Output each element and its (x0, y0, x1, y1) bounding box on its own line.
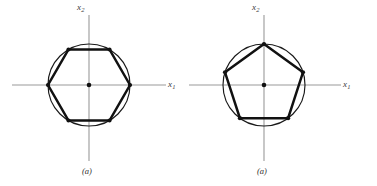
polygon-vertex-dot (262, 42, 266, 46)
polygon-vertex-dot (238, 116, 242, 120)
origin-dot (87, 83, 92, 88)
polygon-vertex-dot (223, 70, 227, 74)
polygon-vertex-dot (286, 116, 290, 120)
figure-panel-hexagon: x2 x1 (a) (0, 0, 188, 186)
figure-root: x2 x1 (a) x2 x1 (a) (0, 0, 377, 186)
polygon-vertex-dot (107, 47, 111, 51)
polygon-vertex-dot (46, 83, 50, 87)
polygon-vertex-dot (66, 47, 70, 51)
pentagon-diagram-svg (189, 0, 377, 186)
origin-dot (262, 83, 267, 88)
x2-axis-label: x2 (77, 3, 84, 12)
x1-axis-label: x1 (168, 80, 175, 89)
panel-caption: (a) (82, 167, 92, 176)
hexagon-diagram-svg (0, 0, 188, 186)
figure-panel-pentagon: x2 x1 (a) (189, 0, 377, 186)
polygon-vertex-dot (107, 118, 111, 122)
x2-axis-label: x2 (252, 3, 259, 12)
polygon-vertex-dot (301, 70, 305, 74)
x1-axis-label: x1 (343, 80, 350, 89)
polygon-vertex-dot (66, 118, 70, 122)
polygon-vertex-dot (128, 83, 132, 87)
panel-caption: (a) (257, 167, 267, 176)
